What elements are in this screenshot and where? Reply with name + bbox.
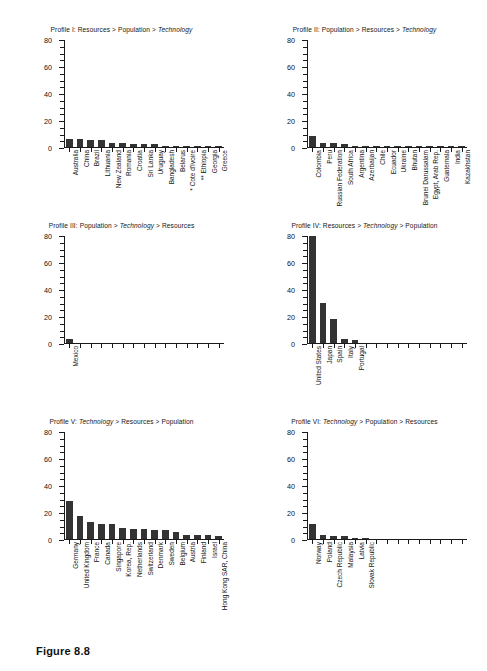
x-tick-label: Malaysia xyxy=(347,542,354,568)
y-tick-label: 60 xyxy=(44,64,52,71)
bar xyxy=(320,143,327,147)
x-tick-label: Belarus xyxy=(179,150,186,172)
y-tick-label: 80 xyxy=(287,233,295,240)
x-tick-label: Korea, Rep. xyxy=(125,542,132,577)
y-tick-minor xyxy=(60,500,64,501)
y-tick-minor xyxy=(303,331,307,332)
y-tick-minor xyxy=(60,101,64,102)
bar xyxy=(109,524,116,539)
y-tick-minor xyxy=(303,452,307,453)
y-tick-major: 0 xyxy=(302,148,307,149)
y-tick-label: 20 xyxy=(44,118,52,125)
y-tick-major: 20 xyxy=(302,121,307,122)
y-tick-minor xyxy=(303,337,307,338)
y-tick-label: 40 xyxy=(44,91,52,98)
y-tick-label: 0 xyxy=(291,537,295,544)
bar xyxy=(330,319,337,343)
x-tick-label: Spain xyxy=(336,346,343,363)
bar xyxy=(352,538,359,540)
y-tick-minor xyxy=(60,250,64,251)
x-tick-label: Canada xyxy=(104,542,111,565)
bar xyxy=(87,140,94,147)
bar-series xyxy=(64,432,224,539)
x-tick-label: Croatia xyxy=(136,150,143,171)
bar xyxy=(194,146,201,148)
y-tick-label: 0 xyxy=(291,341,295,348)
y-tick-minor xyxy=(60,297,64,298)
x-tick-label: Finland xyxy=(200,542,207,563)
plot-area: 020406080 xyxy=(307,40,467,148)
y-tick-minor xyxy=(303,310,307,311)
y-tick-major: 40 xyxy=(302,290,307,291)
x-tick-label: Ukraine xyxy=(400,150,407,172)
x-tick-label: Colombia xyxy=(315,150,322,177)
y-tick-minor xyxy=(303,60,307,61)
x-axis-labels: United StatesJapanSpainItalyPortugal xyxy=(307,346,467,410)
y-tick-minor xyxy=(60,452,64,453)
y-tick-minor xyxy=(60,446,64,447)
x-tick-label: Latvia xyxy=(358,542,365,559)
y-tick-minor xyxy=(303,141,307,142)
title-italic-term: Technology xyxy=(323,418,357,425)
y-tick-label: 40 xyxy=(44,287,52,294)
chart-panel-5: Profile V: Technology > Resources > Popu… xyxy=(0,414,243,610)
x-tick-label: Slovak Republic xyxy=(368,542,375,589)
bar xyxy=(330,536,337,539)
y-tick-minor xyxy=(303,533,307,534)
y-tick-major: 20 xyxy=(302,513,307,514)
y-tick-label: 0 xyxy=(48,537,52,544)
x-tick-label: Guatemala xyxy=(443,150,450,182)
y-tick-minor xyxy=(60,54,64,55)
y-tick-minor xyxy=(303,304,307,305)
bar xyxy=(362,538,369,540)
y-tick-major: 60 xyxy=(59,67,64,68)
chart-panel-2: Profile II: Population > Resources > Tec… xyxy=(243,22,486,218)
x-tick-label: United Kingdom xyxy=(83,542,90,588)
bar xyxy=(87,522,94,539)
bar xyxy=(98,140,105,147)
x-tick-label: Netherlands xyxy=(136,542,143,577)
bar-series xyxy=(307,432,467,539)
y-tick-minor xyxy=(60,506,64,507)
y-tick-minor xyxy=(60,141,64,142)
x-axis-labels: GermanyUnited KingdomFranceCanadaSingapo… xyxy=(64,542,224,606)
chart-panel-6: Profile VI: Technology > Population > Re… xyxy=(243,414,486,610)
x-tick-label: France xyxy=(93,542,100,562)
bar xyxy=(141,529,148,539)
y-tick-minor xyxy=(303,520,307,521)
y-tick-minor xyxy=(303,135,307,136)
y-tick-minor xyxy=(60,304,64,305)
y-tick-major: 60 xyxy=(302,263,307,264)
y-tick-minor xyxy=(60,135,64,136)
plot-area: 020406080 xyxy=(307,432,467,540)
y-tick-minor xyxy=(60,256,64,257)
panel-title: Profile I: Resources > Population > Tech… xyxy=(0,26,243,33)
bar xyxy=(341,144,348,147)
y-tick-minor xyxy=(60,114,64,115)
x-axis-labels: AustraliaChinaBrazilLithuaniaNew Zealand… xyxy=(64,150,224,214)
y-tick-label: 20 xyxy=(44,510,52,517)
bar xyxy=(384,146,391,148)
y-tick-minor xyxy=(303,473,307,474)
y-tick-minor xyxy=(303,47,307,48)
y-tick-major: 60 xyxy=(59,263,64,264)
x-tick-label: Hong Kong SAR, China xyxy=(221,542,228,610)
y-tick-minor xyxy=(303,87,307,88)
y-tick-major: 80 xyxy=(59,236,64,237)
x-tick-label: Italy xyxy=(347,346,354,358)
y-tick-minor xyxy=(60,60,64,61)
y-tick-minor xyxy=(60,520,64,521)
x-tick-label: Bangladesh xyxy=(168,150,175,184)
x-tick-label: Sweden xyxy=(168,542,175,566)
y-tick-label: 40 xyxy=(287,91,295,98)
bar xyxy=(215,146,222,148)
x-tick-label: Czech Republic xyxy=(336,542,343,588)
y-tick-label: 60 xyxy=(44,260,52,267)
panel-title: Profile VI: Technology > Population > Re… xyxy=(243,418,486,425)
y-tick-major: 20 xyxy=(302,317,307,318)
y-tick-minor xyxy=(60,270,64,271)
y-tick-label: 40 xyxy=(287,483,295,490)
x-tick-label: Romania xyxy=(125,150,132,176)
y-tick-major: 40 xyxy=(302,486,307,487)
y-tick-major: 80 xyxy=(59,40,64,41)
